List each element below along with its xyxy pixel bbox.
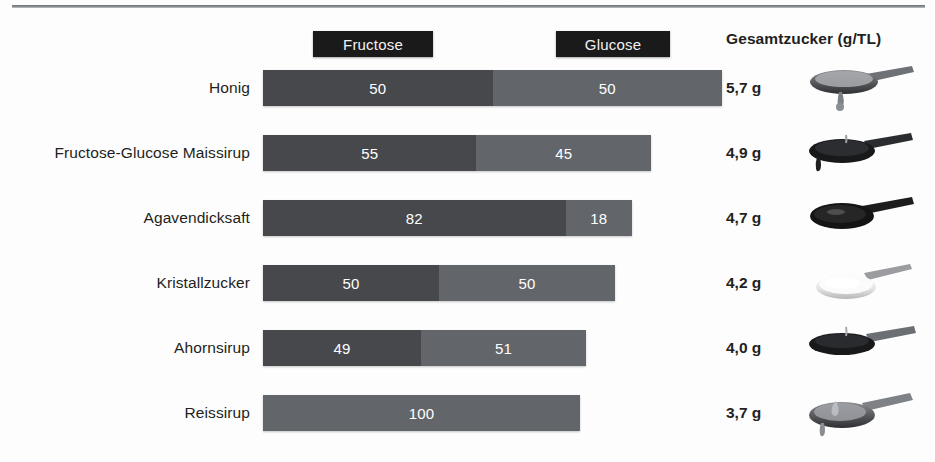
bar-segment-fructose: 82 bbox=[263, 200, 566, 236]
total-sugar-value: 3,7 g bbox=[726, 393, 796, 433]
legend-item-glucose: Glucose bbox=[556, 31, 670, 57]
chart-row: Agavendicksaft 82 18 4,7 g bbox=[0, 198, 935, 238]
row-label: Ahornsirup bbox=[0, 328, 250, 368]
column-header-total-sugar: Gesamtzucker (g/TL) bbox=[726, 30, 916, 48]
row-label: Honig bbox=[0, 68, 250, 108]
bar-segment-glucose: 50 bbox=[493, 70, 723, 106]
bar-segment-glucose: 51 bbox=[421, 330, 586, 366]
chart-root: Fructose Glucose Gesamtzucker (g/TL) Hon… bbox=[0, 0, 935, 462]
spoon-dripping-honey-icon bbox=[806, 64, 926, 112]
total-sugar-value: 4,2 g bbox=[726, 263, 796, 303]
bar-segment-glucose: 45 bbox=[476, 135, 651, 171]
total-sugar-value: 4,0 g bbox=[726, 328, 796, 368]
bar-segment-glucose: 18 bbox=[566, 200, 632, 236]
spoon-white-crystal-sugar-icon bbox=[806, 259, 926, 307]
chart-row: Reissirup 100 3,7 g bbox=[0, 393, 935, 433]
bar-segment-fructose: 49 bbox=[263, 330, 421, 366]
stacked-bar: 82 18 bbox=[263, 200, 632, 236]
chart-row: Ahornsirup 49 51 4,0 g bbox=[0, 328, 935, 368]
total-sugar-value: 5,7 g bbox=[726, 68, 796, 108]
bar-segment-fructose: 55 bbox=[263, 135, 476, 171]
stacked-bar: 49 51 bbox=[263, 330, 586, 366]
top-divider-rule bbox=[12, 5, 925, 8]
total-sugar-value: 4,7 g bbox=[726, 198, 796, 238]
bar-segment-glucose: 100 bbox=[263, 395, 580, 431]
stacked-bar: 55 45 bbox=[263, 135, 651, 171]
chart-row: Fructose-Glucose Maissirup 55 45 4,9 g bbox=[0, 133, 935, 173]
chart-row: Honig 50 50 5,7 g bbox=[0, 68, 935, 108]
legend-item-fructose: Fructose bbox=[313, 31, 433, 57]
row-label: Reissirup bbox=[0, 393, 250, 433]
chart-row: Kristallzucker 50 50 4,2 g bbox=[0, 263, 935, 303]
bar-segment-glucose: 50 bbox=[439, 265, 615, 301]
spoon-rice-syrup-icon bbox=[806, 389, 926, 437]
bar-segment-fructose: 50 bbox=[263, 70, 493, 106]
legend-label-fructose: Fructose bbox=[343, 36, 403, 53]
stacked-bar: 50 50 bbox=[263, 265, 615, 301]
total-sugar-value: 4,9 g bbox=[726, 133, 796, 173]
stacked-bar: 100 bbox=[263, 395, 580, 431]
spoon-maple-syrup-icon bbox=[806, 324, 926, 372]
row-label: Fructose-Glucose Maissirup bbox=[0, 133, 250, 173]
row-label: Agavendicksaft bbox=[0, 198, 250, 238]
spoon-dark-corn-syrup-icon bbox=[806, 129, 926, 177]
spoon-dark-agave-syrup-icon bbox=[806, 194, 926, 242]
stacked-bar: 50 50 bbox=[263, 70, 722, 106]
legend-label-glucose: Glucose bbox=[585, 36, 641, 53]
row-label: Kristallzucker bbox=[0, 263, 250, 303]
bar-segment-fructose: 50 bbox=[263, 265, 439, 301]
